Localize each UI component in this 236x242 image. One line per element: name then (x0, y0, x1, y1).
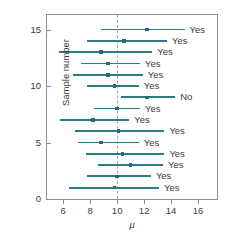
interval-bar (87, 175, 150, 177)
contains-mu-label: Yes (144, 138, 160, 148)
confidence-interval-chart: YesYesYesYesYesYesNoYesYesYesYesYesYesYe… (0, 0, 236, 242)
interval-bar (59, 51, 152, 53)
plot-area: YesYesYesYesYesYesNoYesYesYesYesYesYesYe… (46, 14, 218, 200)
contains-mu-label: Yes (190, 25, 206, 35)
y-tick-mark (47, 143, 51, 144)
x-tick-label: 16 (193, 205, 204, 216)
interval-bar (60, 119, 129, 121)
contains-mu-label: Yes (169, 126, 185, 136)
interval-center-point (99, 50, 103, 54)
x-tick-mark (117, 199, 118, 204)
x-tick-mark (63, 199, 64, 204)
y-axis-title: Sample number (60, 13, 71, 133)
contains-mu-label: Yes (134, 115, 150, 125)
interval-center-point (106, 62, 110, 66)
interval-bar (78, 142, 139, 144)
contains-mu-label: Yes (157, 47, 173, 57)
interval-center-point (113, 186, 117, 190)
contains-mu-label: Yes (172, 36, 188, 46)
contains-mu-label: Yes (144, 81, 160, 91)
interval-center-point (129, 163, 133, 167)
y-tick-mark (47, 86, 51, 87)
x-axis-title: μ (46, 218, 218, 230)
x-tick-mark (90, 199, 91, 204)
y-tick-label: 0 (36, 193, 41, 204)
x-tick-label: 12 (139, 205, 150, 216)
interval-center-point (113, 84, 117, 88)
interval-center-point (115, 107, 119, 111)
contains-mu-label: Yes (145, 104, 161, 114)
contains-mu-label: Yes (164, 183, 180, 193)
x-tick-mark (144, 199, 145, 204)
interval-bar (86, 153, 164, 155)
interval-bar (81, 63, 140, 65)
y-tick-label: 5 (36, 137, 41, 148)
y-tick-mark (47, 30, 51, 31)
interval-center-point (121, 152, 125, 156)
y-tick-label: 15 (30, 24, 41, 35)
contains-mu-label: Yes (168, 160, 184, 170)
interval-center-point (122, 39, 126, 43)
y-tick-mark (47, 199, 51, 200)
x-tick-label: 10 (112, 205, 123, 216)
x-tick-mark (198, 199, 199, 204)
contains-mu-label: Yes (169, 149, 185, 159)
contains-mu-label: No (180, 92, 192, 102)
interval-center-point (145, 96, 149, 100)
interval-center-point (106, 73, 110, 77)
interval-center-point (145, 28, 149, 32)
interval-center-point (91, 118, 95, 122)
x-tick-label: 6 (61, 205, 66, 216)
interval-center-point (117, 129, 121, 133)
x-tick-mark (171, 199, 172, 204)
contains-mu-label: Yes (148, 70, 164, 80)
interval-center-point (115, 175, 119, 179)
x-tick-label: 14 (166, 205, 177, 216)
contains-mu-label: Yes (145, 59, 161, 69)
x-tick-label: 8 (88, 205, 93, 216)
interval-center-point (99, 141, 103, 145)
interval-bar (101, 29, 185, 31)
contains-mu-label: Yes (156, 171, 172, 181)
y-tick-label: 10 (30, 80, 41, 91)
interval-bar (87, 40, 167, 42)
